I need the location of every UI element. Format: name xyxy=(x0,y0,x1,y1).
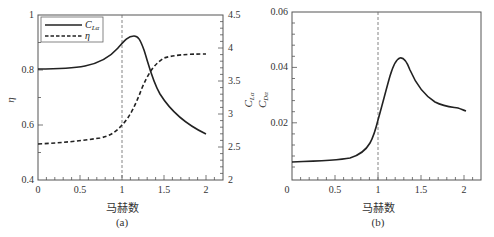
x-tick-2: 2 xyxy=(462,184,467,195)
x-tick-0.5: 0.5 xyxy=(329,184,342,195)
x-tick-1: 1 xyxy=(120,184,125,195)
figure: CLα η 0 0.5 1 1.5 2 0.4 0.6 0.8 1 2 2.5 … xyxy=(0,0,494,237)
caption-a: (a) xyxy=(116,216,129,229)
ry-tick-3: 3 xyxy=(228,108,233,119)
ry-tick-4: 4 xyxy=(228,42,233,53)
x-axis-label-a: 马赫数 xyxy=(106,202,139,215)
y-tick-0.6: 0.6 xyxy=(22,119,35,130)
x-tick-0: 0 xyxy=(36,184,41,195)
right-y-tick-labels-a: 2 2.5 3 3.5 4 4.5 xyxy=(228,9,241,185)
right-y-ticks-a xyxy=(218,22,223,174)
legend-a: CLα η xyxy=(41,17,103,42)
chart-b: 0 0.5 1 1.5 2 0.02 0.04 0.06 CDα 马赫数 (b) xyxy=(256,6,481,229)
y-axis-label-cda: CDα xyxy=(256,92,270,108)
chart-a: CLα η 0 0.5 1 1.5 2 0.4 0.6 0.8 1 2 2.5 … xyxy=(4,9,256,229)
x-ticks-b xyxy=(301,175,473,180)
y-tick-labels-b: 0.02 0.04 0.06 xyxy=(271,6,289,128)
plot-frame-b xyxy=(292,12,481,180)
x-tick-1: 1 xyxy=(376,184,381,195)
y-tick-1: 1 xyxy=(29,9,34,20)
legend-label-eta: η xyxy=(85,30,90,41)
ry-tick-3.5: 3.5 xyxy=(228,75,241,86)
y-tick-0.8: 0.8 xyxy=(22,64,35,75)
ry-tick-4.5: 4.5 xyxy=(228,9,241,20)
x-tick-1.5: 1.5 xyxy=(158,184,171,195)
x-ticks-a xyxy=(46,175,214,180)
y-tick-0.4: 0.4 xyxy=(22,174,35,185)
x-tick-0: 0 xyxy=(285,184,290,195)
left-y-ticks-a xyxy=(38,43,43,153)
right-y-axis-label-cla: CLα xyxy=(242,92,256,107)
y-ticks-b xyxy=(292,23,297,167)
y-tick-0.04: 0.04 xyxy=(271,61,289,72)
y-tick-0.02: 0.02 xyxy=(271,117,289,128)
left-y-tick-labels-a: 0.4 0.6 0.8 1 xyxy=(22,9,35,185)
ry-tick-2: 2 xyxy=(228,174,233,185)
x-tick-2: 2 xyxy=(204,184,209,195)
series-cda xyxy=(292,58,466,162)
x-axis-label-b: 马赫数 xyxy=(362,202,395,215)
ry-tick-2.5: 2.5 xyxy=(228,141,241,152)
x-tick-0.5: 0.5 xyxy=(74,184,87,195)
left-y-axis-label-eta: η xyxy=(4,97,16,102)
x-tick-1.5: 1.5 xyxy=(415,184,428,195)
x-tick-labels-b: 0 0.5 1 1.5 2 xyxy=(285,184,467,195)
x-tick-labels-a: 0 0.5 1 1.5 2 xyxy=(36,184,209,195)
caption-b: (b) xyxy=(372,216,385,229)
y-tick-0.06: 0.06 xyxy=(271,6,289,17)
